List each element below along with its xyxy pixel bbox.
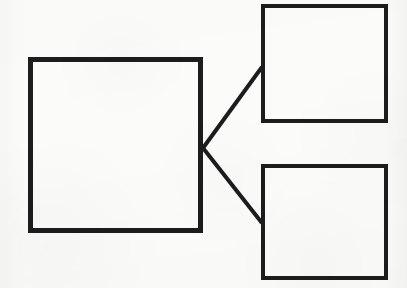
large-left-box — [31, 60, 201, 231]
connector-main-to-bottom-right — [203, 148, 262, 223]
small-bottom-right-box — [263, 166, 386, 278]
small-top-right-box — [263, 6, 386, 121]
diagram-canvas — [0, 0, 407, 288]
diagram-svg — [0, 0, 407, 288]
connector-main-to-top-right — [203, 67, 262, 148]
